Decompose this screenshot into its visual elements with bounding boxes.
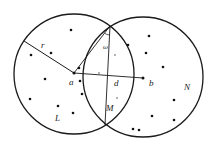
dot-faint [98, 72, 100, 74]
dot-left [72, 112, 75, 115]
two-circle-diagram: r a d b N L M ω [0, 0, 216, 151]
dot-right [127, 44, 130, 47]
point-b [142, 77, 145, 80]
dot-faint [114, 54, 116, 56]
dot-left [50, 52, 53, 55]
point-a [73, 72, 76, 75]
label-m: M [105, 103, 114, 113]
dot-right [173, 119, 176, 122]
radius-line-r [24, 41, 74, 73]
dot-left [30, 54, 33, 57]
dot-right [145, 52, 148, 55]
dot-faint [116, 97, 118, 99]
dot-left [81, 93, 84, 96]
dot-left [79, 80, 82, 83]
distance-line-d [74, 73, 143, 78]
dot-right [132, 128, 135, 131]
dot-left [44, 78, 47, 81]
label-d: d [114, 78, 119, 88]
dot-right [162, 66, 165, 69]
label-n: N [183, 82, 191, 92]
dot-right [138, 129, 141, 132]
dot-right [151, 115, 154, 118]
label-b: b [149, 78, 154, 88]
label-l: L [54, 113, 60, 123]
dot-left [78, 67, 81, 70]
angle-omega-arc [105, 33, 110, 35]
dot-left [29, 98, 32, 101]
label-a: a [69, 77, 74, 87]
dot-right [148, 35, 151, 38]
dot-left [70, 29, 73, 32]
dot-right [173, 99, 176, 102]
label-r: r [41, 40, 45, 50]
dot-left [57, 105, 60, 108]
label-omega: ω [103, 43, 108, 51]
